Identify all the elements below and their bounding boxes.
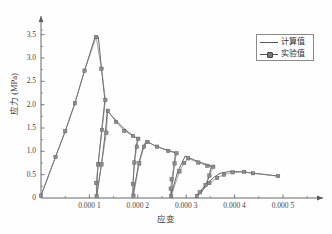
data-point-marker — [155, 145, 158, 148]
y-tick-label: 1.0 — [10, 146, 36, 155]
data-point-marker — [137, 137, 140, 140]
data-point-marker — [178, 170, 181, 173]
chart-legend: 计算值 实验值 — [256, 34, 314, 61]
data-point-marker — [100, 67, 103, 70]
data-point-marker — [96, 163, 99, 166]
data-point-marker — [39, 194, 42, 197]
data-point-marker — [83, 69, 86, 72]
data-point-marker — [208, 174, 211, 177]
data-point-marker — [208, 181, 211, 184]
data-point-marker — [175, 152, 178, 155]
data-point-marker — [204, 183, 207, 186]
data-point-marker — [197, 161, 200, 164]
legend-label-calculated: 计算值 — [279, 36, 305, 48]
data-point-marker — [94, 181, 97, 184]
data-point-marker — [135, 145, 138, 148]
data-point-marker — [131, 134, 134, 137]
data-point-marker — [123, 129, 126, 132]
x-tick-label: 0.000 5 — [261, 201, 305, 210]
data-point-marker — [133, 161, 136, 164]
data-point-marker — [186, 157, 189, 160]
x-tick-label: 0.000 4 — [213, 201, 257, 210]
data-point-marker — [169, 194, 172, 197]
data-point-marker — [195, 194, 198, 197]
data-point-marker — [138, 162, 141, 165]
data-point-marker — [106, 109, 109, 112]
data-point-marker — [54, 155, 57, 158]
legend-item-calculated: 计算值 — [259, 36, 311, 48]
data-point-marker — [243, 170, 246, 173]
data-point-marker — [132, 194, 135, 197]
data-point-marker — [64, 130, 67, 133]
data-point-marker — [215, 176, 218, 179]
data-point-marker — [231, 171, 234, 174]
data-point-marker — [276, 174, 279, 177]
x-tick-label: 0.000 1 — [67, 201, 111, 210]
data-point-marker — [146, 140, 149, 143]
data-point-marker — [131, 182, 134, 185]
y-axis-label: 应力 (MPa) — [7, 59, 19, 129]
data-point-marker — [114, 120, 117, 123]
x-tick-label: 0.000 3 — [164, 201, 208, 210]
data-point-marker — [212, 165, 215, 168]
data-point-marker — [100, 163, 103, 166]
legend-line-swatch-calculated — [259, 37, 279, 47]
data-point-marker — [95, 194, 98, 197]
data-point-marker — [198, 191, 201, 194]
data-point-marker — [169, 187, 172, 190]
data-point-marker — [142, 145, 145, 148]
data-point-marker — [251, 172, 254, 175]
data-point-marker — [105, 131, 108, 134]
y-tick-label: 3.5 — [10, 30, 36, 39]
data-point-marker — [73, 102, 76, 105]
data-point-marker — [222, 173, 225, 176]
data-point-marker — [183, 161, 186, 164]
data-point-marker — [206, 164, 209, 167]
data-point-marker — [167, 149, 170, 152]
data-point-marker — [94, 35, 97, 38]
legend-label-experimental: 实验值 — [279, 48, 305, 60]
data-point-marker — [170, 178, 173, 181]
data-point-marker — [100, 128, 103, 131]
y-tick-label: 0 — [10, 193, 36, 202]
x-tick-label: 0.000 2 — [116, 201, 160, 210]
legend-item-experimental: 实验值 — [259, 48, 311, 60]
stress-strain-chart: 00.51.01.52.02.53.03.50.000 10.000 20.00… — [0, 0, 332, 234]
data-point-marker — [104, 98, 107, 101]
data-series — [39, 35, 280, 198]
x-axis-label: 应变 — [0, 212, 332, 224]
y-tick-label: 0.5 — [10, 170, 36, 179]
legend-marker-swatch-experimental — [259, 49, 279, 59]
data-point-marker — [173, 162, 176, 165]
